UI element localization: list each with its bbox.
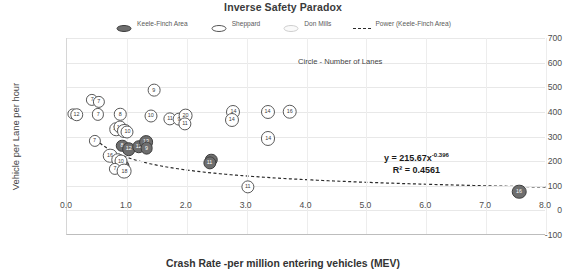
legend-item-keele-finch[interactable]: Keele-Finch Area <box>115 19 188 28</box>
data-point[interactable]: 16 <box>282 105 297 120</box>
data-point[interactable]: 18 <box>117 164 132 179</box>
data-point[interactable]: 16 <box>512 185 527 200</box>
y-axis-tick-label: -100 <box>545 230 562 240</box>
data-point[interactable]: 10 <box>144 109 157 122</box>
chart-container: Inverse Safety Paradox Keele-Finch Area … <box>0 0 566 276</box>
x-axis-tick-label: 5.0 <box>359 200 371 210</box>
data-point[interactable]: 14 <box>261 131 275 145</box>
circle-number-of-lanes-note: Circle - Number of Lanes <box>298 57 382 66</box>
x-axis-title: Crash Rate -per million entering vehicle… <box>0 258 566 269</box>
y-axis-tick-label: 0 <box>557 205 562 215</box>
x-axis-tick-label: 1.0 <box>120 200 132 210</box>
data-point[interactable]: 9 <box>147 84 160 97</box>
legend-label-power-trendline: Power (Keele-Finch Area) <box>375 20 451 27</box>
x-axis-tick-label: 0.0 <box>60 200 72 210</box>
x-axis-tick-label: 4.0 <box>300 200 312 210</box>
x-axis-tick-label: 6.0 <box>419 200 431 210</box>
data-point[interactable]: 9 <box>140 142 153 155</box>
equation-line: y = 215.67x-0.396 <box>384 151 449 164</box>
y-axis-tick-label: 100 <box>548 181 562 191</box>
legend-marker-open-icon <box>210 19 228 28</box>
legend-item-sheppard[interactable]: Sheppard <box>210 19 261 28</box>
equation-text: y = 215.67x <box>384 153 432 163</box>
x-axis-tick-label: 8.0 <box>539 200 551 210</box>
y-axis-tick-label: 700 <box>548 33 562 43</box>
y-axis-tick-label: 300 <box>548 132 562 142</box>
legend-label-keele-finch: Keele-Finch Area <box>137 20 188 27</box>
x-axis-tick-label: 3.0 <box>240 200 252 210</box>
y-axis-tick-label: 600 <box>548 58 562 68</box>
x-axis-tick-label: 7.0 <box>479 200 491 210</box>
equation-exponent: -0.396 <box>432 152 449 158</box>
trendline-equation-box: y = 215.67x-0.396 R² = 0.4561 <box>384 151 449 176</box>
data-point[interactable]: 10 <box>121 125 134 138</box>
x-axis-tick-label: 2.0 <box>180 200 192 210</box>
legend-marker-dark-icon <box>115 19 133 28</box>
y-axis-tick-label: 200 <box>548 156 562 166</box>
legend-marker-light-icon <box>282 19 300 28</box>
legend-item-power-trendline[interactable]: Power (Keele-Finch Area) <box>353 19 451 28</box>
data-point[interactable]: 14 <box>225 113 239 127</box>
legend-label-sheppard: Sheppard <box>232 20 261 27</box>
legend-item-don-mills[interactable]: Don Mills <box>282 19 331 28</box>
y-axis-tick-label: 500 <box>548 82 562 92</box>
legend-label-don-mills: Don Mills <box>304 20 331 27</box>
chart-legend: Keele-Finch Area Sheppard Don Mills Powe… <box>0 19 566 28</box>
y-axis-title: Vehicle per Lane per hour <box>10 38 26 235</box>
chart-title: Inverse Safety Paradox <box>0 1 566 13</box>
legend-marker-dashed-line-icon <box>353 19 371 28</box>
r-squared-line: R² = 0.4561 <box>384 164 449 176</box>
data-point[interactable]: 12 <box>70 108 84 122</box>
data-point[interactable]: 14 <box>261 105 275 119</box>
y-axis-tick-label: 400 <box>548 107 562 117</box>
